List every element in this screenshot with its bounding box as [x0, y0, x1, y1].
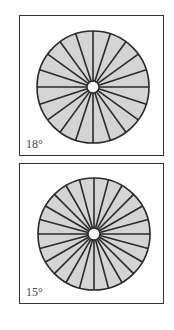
spoke-wheel-diagram-18deg [20, 16, 165, 157]
angle-label: 15° [26, 286, 43, 298]
hub-circle [87, 81, 99, 93]
wheel-panel-18deg: 18° [19, 15, 164, 156]
angle-label: 18° [26, 138, 43, 150]
hub-circle [88, 228, 100, 240]
spoke-wheel-diagram-15deg [20, 164, 165, 305]
wheel-panel-15deg: 15° [19, 163, 164, 304]
